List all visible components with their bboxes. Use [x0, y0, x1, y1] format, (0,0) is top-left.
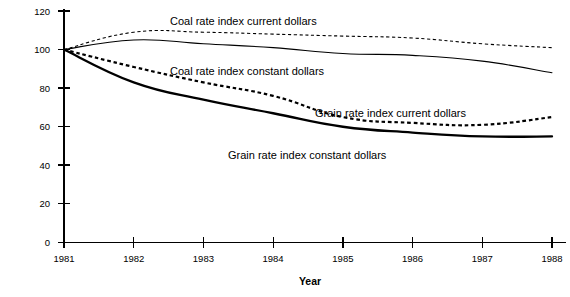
chart-canvas: 120 100 80 60 40 20 0 1981 1982 1983 198…: [0, 0, 570, 297]
x-tick-label-1981: 1981: [53, 253, 74, 264]
y-tick-label-60: 60: [39, 121, 50, 132]
y-tick-label-100: 100: [34, 44, 50, 55]
x-tick-label-1983: 1983: [193, 253, 214, 264]
series-label-coal-constant: Coal rate index constant dollars: [170, 65, 325, 77]
x-tick-label-1986: 1986: [402, 253, 423, 264]
y-tick-label-20: 20: [39, 198, 50, 209]
y-tick-label-80: 80: [39, 83, 50, 94]
y-tick-label-0: 0: [45, 237, 50, 248]
series-label-grain-current: Grain rate index current dollars: [315, 107, 467, 119]
series-label-coal-current: Coal rate index current dollars: [170, 15, 317, 27]
x-tick-label-1987: 1987: [472, 253, 493, 264]
x-tick-label-1984: 1984: [263, 253, 284, 264]
line-chart: 120 100 80 60 40 20 0 1981 1982 1983 198…: [0, 0, 570, 297]
x-tick-label-1985: 1985: [332, 253, 353, 264]
x-tick-label-1988: 1988: [541, 253, 562, 264]
x-tick-label-1982: 1982: [123, 253, 144, 264]
x-axis-title: Year: [299, 275, 321, 287]
y-tick-label-40: 40: [39, 160, 50, 171]
y-tick-label-120: 120: [34, 6, 50, 17]
series-label-grain-constant: Grain rate index constant dollars: [228, 149, 387, 161]
series-line-grain-constant: [64, 50, 552, 137]
